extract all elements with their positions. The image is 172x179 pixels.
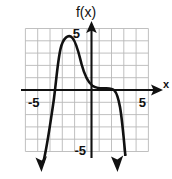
x-axis-tick-label-positive-5: 5 — [139, 95, 146, 110]
graph-figure: f(x) 5 -5 -5 5 x — [0, 0, 172, 179]
function-label: f(x) — [76, 4, 96, 20]
y-axis-tick-label-negative-5: -5 — [74, 143, 86, 158]
y-axis-tick-label-positive-5: 5 — [73, 26, 80, 41]
x-axis-tick-label-negative-5: -5 — [28, 95, 40, 110]
graph-canvas: f(x) 5 -5 -5 5 x — [0, 0, 172, 179]
x-axis-name-label: x — [163, 78, 170, 90]
